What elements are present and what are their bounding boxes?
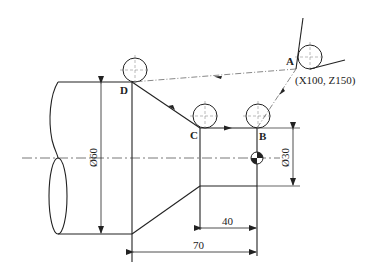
dim-label-total-length: 70 <box>193 240 204 251</box>
point-a-coordinates: (X100, Z150) <box>295 75 356 86</box>
turning-diagram <box>0 0 371 272</box>
point-a-label: A <box>286 56 294 67</box>
dim-label-small-length: 40 <box>222 216 233 227</box>
point-c-label: C <box>190 130 198 141</box>
dim-label-large-diameter: Ø60 <box>88 148 99 167</box>
point-b-label: B <box>259 131 266 142</box>
workpiece <box>49 82 257 262</box>
point-d-label: D <box>120 85 128 96</box>
origin-symbol <box>251 152 263 164</box>
dim-label-small-diameter: Ø30 <box>280 148 291 167</box>
